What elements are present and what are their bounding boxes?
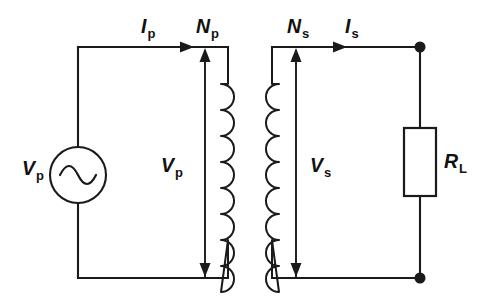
primary-current-arrowhead: [180, 42, 194, 53]
load-resistor-body: [404, 128, 436, 196]
primary-voltage-label: Vp: [161, 154, 183, 180]
circuit-canvas: Ip Np Ns Is Vp Vp Vs RL: [0, 0, 482, 298]
primary-current-label: Ip: [141, 15, 155, 41]
secondary-current-label: Is: [345, 15, 359, 41]
primary-voltage-arrowhead: [200, 263, 211, 277]
primary-turns-arrowhead: [200, 48, 211, 62]
secondary-turns-label: Ns: [287, 15, 309, 41]
transformer-circuit-diagram: Ip Np Ns Is Vp Vp Vs RL: [0, 0, 482, 298]
primary-turns-label: Np: [196, 15, 219, 41]
secondary-current-arrowhead: [333, 42, 347, 53]
secondary-voltage-label: Vs: [310, 154, 331, 180]
top-right-node-dot: [415, 42, 426, 53]
secondary-winding-coil: [266, 47, 279, 292]
primary-winding-coil: [221, 47, 234, 292]
load-resistor-label: RL: [444, 150, 467, 176]
source-voltage-label: Vp: [22, 157, 44, 183]
secondary-turns-arrowhead: [291, 48, 302, 62]
bottom-right-node-dot: [415, 273, 426, 284]
secondary-voltage-arrowhead: [291, 263, 302, 277]
